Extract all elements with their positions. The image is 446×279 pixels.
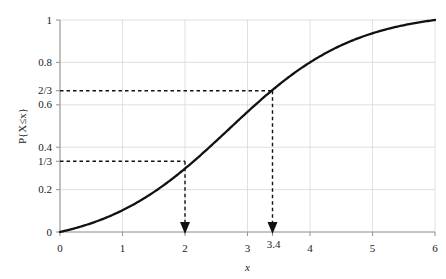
y-tick-label-1: 1 (47, 14, 53, 26)
y-tick-label-0: 0 (47, 226, 53, 238)
y-tick-label-0_6: 0.6 (38, 98, 52, 110)
x-tick-label-6: 6 (432, 242, 438, 254)
y-tick-label-0_8: 0.8 (38, 56, 52, 68)
y-tick-label-0_4: 0.4 (38, 141, 52, 153)
x-tick-label-5: 5 (370, 242, 376, 254)
y-tick-label-2_3: 2/3 (38, 84, 53, 96)
x-tick-label-2: 2 (182, 242, 188, 254)
plot-background (0, 0, 446, 279)
x-axis-title: x (244, 261, 250, 273)
x-tick-label-3: 3 (245, 242, 251, 254)
y-axis-title: P{X≤x} (16, 108, 28, 144)
y-tick-label-1_3: 1/3 (38, 155, 53, 167)
x-tick-label-0: 0 (57, 242, 63, 254)
x-tick-label-4: 4 (307, 242, 313, 254)
x-tick-label-3_4: 3.4 (267, 238, 281, 250)
y-tick-label-0_2: 0.2 (38, 183, 52, 195)
chart-figure: 0 0.2 1/3 0.4 0.6 2/3 0.8 1 0 1 2 3 3.4 … (0, 0, 446, 279)
cdf-plot-svg: 0 0.2 1/3 0.4 0.6 2/3 0.8 1 0 1 2 3 3.4 … (0, 0, 446, 279)
x-tick-label-1: 1 (120, 242, 126, 254)
